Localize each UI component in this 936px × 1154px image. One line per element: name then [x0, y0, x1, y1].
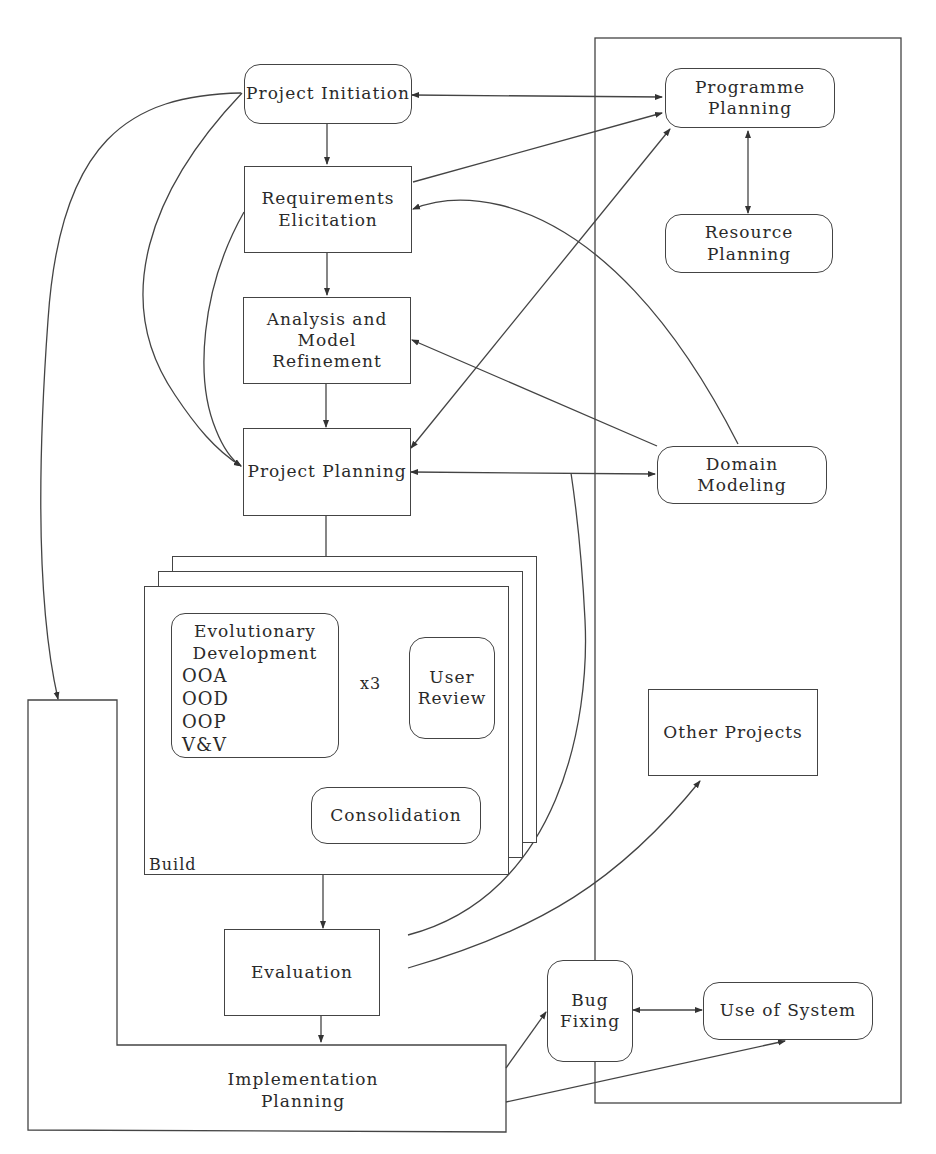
evo-item-oop: OOP — [182, 710, 338, 733]
node-evaluation[interactable]: Evaluation — [224, 929, 380, 1016]
node-analysis-model-refinement[interactable]: Analysis andModel Refinement — [243, 297, 411, 384]
node-consolidation[interactable]: Consolidation — [311, 787, 481, 844]
build-label: Build — [149, 855, 197, 874]
node-requirements-elicitation[interactable]: RequirementsElicitation — [244, 166, 412, 253]
node-evolutionary-development[interactable]: Evolutionary Development OOA OOD OOP V&V — [171, 613, 339, 758]
evo-item-vv: V&V — [182, 733, 338, 756]
node-programme-planning[interactable]: ProgrammePlanning — [665, 68, 835, 128]
node-domain-modeling[interactable]: DomainModeling — [657, 446, 827, 504]
node-other-projects[interactable]: Other Projects — [648, 689, 818, 776]
node-user-review[interactable]: UserReview — [409, 637, 495, 739]
iteration-label: x3 — [360, 674, 381, 693]
node-implementation-planning[interactable]: Implementation Planning — [218, 1068, 388, 1112]
node-project-initiation[interactable]: Project Initiation — [244, 64, 412, 124]
diagram-canvas: Build Project Initiation ProgrammePlanni… — [0, 0, 936, 1154]
evo-item-ood: OOD — [182, 687, 338, 710]
node-project-planning[interactable]: Project Planning — [243, 428, 411, 516]
node-bug-fixing[interactable]: BugFixing — [547, 960, 633, 1062]
evo-item-ooa: OOA — [182, 664, 338, 687]
node-use-of-system[interactable]: Use of System — [703, 982, 873, 1040]
node-resource-planning[interactable]: ResourcePlanning — [665, 214, 833, 273]
evo-title: Evolutionary Development — [182, 620, 338, 664]
